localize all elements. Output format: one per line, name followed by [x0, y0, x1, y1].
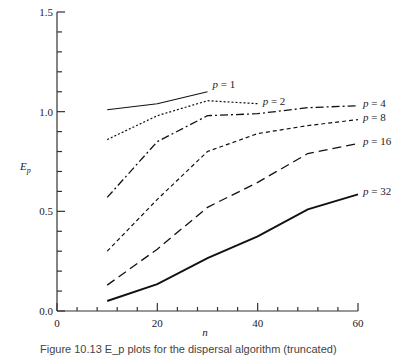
x-axis-title: n [202, 326, 208, 338]
series-line-p1 [107, 92, 207, 110]
y-axis-title: Ep [19, 160, 31, 175]
series-label-p16: p = 16 [362, 135, 392, 147]
y-tick-label: 0.5 [39, 205, 53, 217]
series-label-p2: p = 2 [262, 95, 286, 107]
series-lines [107, 92, 358, 301]
y-tick-label: 0.0 [39, 305, 53, 317]
series-label-p4: p = 4 [362, 97, 386, 109]
x-tick-label: 60 [353, 317, 365, 329]
figure-caption: Figure 10.13 E_p plots for the dispersal… [40, 343, 337, 355]
x-tick-label: 20 [152, 317, 164, 329]
series-line-p32 [107, 194, 358, 301]
series-line-p8 [107, 120, 358, 252]
series-label-p32: p = 32 [362, 185, 391, 197]
x-tick-label: 40 [252, 317, 264, 329]
series-labels: p = 1p = 2p = 4p = 8p = 16p = 32 [212, 78, 392, 198]
y-tick-label: 1.5 [39, 6, 53, 18]
y-tick-label: 1.0 [39, 106, 53, 118]
x-tick-label: 0 [54, 317, 60, 329]
series-label-p1: p = 1 [212, 78, 236, 90]
series-line-p16 [107, 144, 358, 286]
series-label-p8: p = 8 [362, 111, 386, 123]
axes [57, 12, 358, 311]
tick-labels: 0.00.51.01.50204060 [39, 6, 364, 329]
